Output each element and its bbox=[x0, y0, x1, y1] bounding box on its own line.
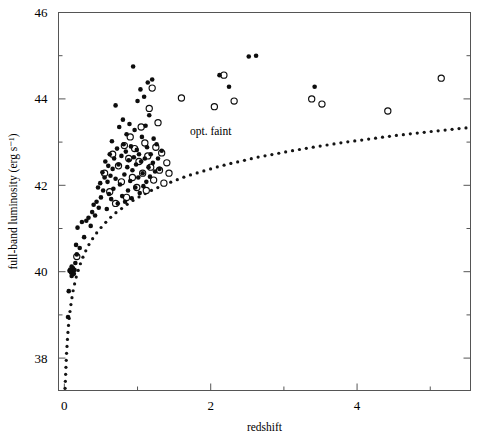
limit-curve-dot bbox=[450, 128, 453, 131]
filled-circle-point bbox=[145, 145, 150, 150]
filled-circle-point bbox=[143, 123, 148, 128]
filled-circle-point bbox=[120, 194, 125, 199]
limit-curve-dot bbox=[360, 138, 363, 141]
open-circle-point bbox=[178, 95, 184, 101]
filled-circle-point bbox=[110, 139, 115, 144]
filled-circle-point bbox=[88, 224, 93, 229]
filled-circle-point bbox=[146, 165, 151, 170]
filled-circle-point bbox=[133, 185, 138, 190]
filled-circle-point bbox=[116, 162, 121, 167]
filled-circle-point bbox=[112, 156, 117, 161]
limit-curve-dot bbox=[319, 145, 322, 148]
limit-curve-dot bbox=[64, 380, 67, 383]
limit-curve-dot bbox=[339, 141, 342, 144]
filled-circle-point bbox=[156, 156, 161, 161]
limit-curve-dot bbox=[367, 138, 370, 141]
y-tick-label: 42 bbox=[35, 178, 48, 193]
filled-circle-point bbox=[254, 53, 259, 58]
filled-circle-point bbox=[123, 199, 128, 204]
data-points-open bbox=[74, 72, 445, 260]
filled-circle-point bbox=[101, 188, 106, 193]
x-tick-label: 4 bbox=[354, 398, 361, 413]
limit-curve-dot bbox=[87, 243, 90, 246]
filled-circle-point bbox=[115, 201, 120, 206]
filled-circle-point bbox=[124, 149, 129, 154]
open-circle-point bbox=[231, 98, 237, 104]
limit-curve-dot bbox=[84, 249, 87, 252]
filled-circle-point bbox=[137, 152, 142, 157]
open-circle-point bbox=[309, 96, 315, 102]
filled-circle-point bbox=[142, 94, 147, 99]
data-points-filled bbox=[66, 53, 317, 319]
filled-circle-point bbox=[154, 142, 159, 147]
filled-circle-point bbox=[138, 87, 143, 92]
limit-curve-dot bbox=[95, 231, 98, 234]
filled-circle-point bbox=[108, 174, 113, 179]
limit-curve-dot bbox=[64, 366, 67, 369]
limit-curve-dot bbox=[150, 189, 153, 192]
limit-curve-dot bbox=[291, 149, 294, 152]
limit-curve-dot bbox=[77, 269, 80, 272]
limit-curve-dot bbox=[137, 195, 140, 198]
limit-curve-dot bbox=[257, 156, 260, 159]
filled-circle-point bbox=[135, 99, 140, 104]
filled-circle-point bbox=[75, 225, 80, 230]
filled-circle-point bbox=[107, 192, 112, 197]
limit-curve-dot bbox=[104, 221, 107, 224]
filled-circle-point bbox=[227, 85, 232, 90]
scatter-figure: 0243840424446 opt. faint redshiftfull-ba… bbox=[0, 0, 477, 434]
open-circle-point bbox=[166, 170, 172, 176]
x-axis-title: redshift bbox=[247, 421, 283, 433]
y-tick-label: 38 bbox=[35, 351, 48, 366]
limit-curve-dot bbox=[65, 345, 68, 348]
filled-circle-point bbox=[80, 220, 85, 225]
limit-curve-dot bbox=[156, 186, 159, 189]
filled-circle-point bbox=[132, 128, 137, 133]
y-axis-title: full-band luminosity (erg s⁻¹) bbox=[7, 133, 20, 269]
filled-circle-point bbox=[96, 205, 101, 210]
limit-curve-dot bbox=[209, 167, 212, 170]
limit-curve-dot bbox=[109, 216, 112, 219]
filled-circle-point bbox=[103, 159, 108, 164]
limit-curve-dot bbox=[298, 148, 301, 151]
limit-curve-dot bbox=[229, 162, 232, 165]
filled-circle-point bbox=[148, 152, 153, 157]
filled-circle-point bbox=[105, 180, 110, 185]
filled-circle-point bbox=[131, 64, 136, 69]
filled-circle-point bbox=[312, 85, 317, 90]
filled-circle-point bbox=[246, 54, 251, 59]
limit-curve-dot bbox=[250, 157, 253, 160]
filled-circle-point bbox=[109, 197, 114, 202]
axis-ticks bbox=[59, 13, 471, 391]
open-circle-point bbox=[161, 180, 167, 186]
filled-circle-point bbox=[124, 132, 129, 137]
filled-circle-point bbox=[137, 191, 142, 196]
limit-curve-dot bbox=[196, 171, 199, 174]
x-tick-label: 2 bbox=[207, 398, 214, 413]
filled-circle-point bbox=[145, 80, 150, 85]
filled-circle-point bbox=[144, 180, 149, 185]
filled-circle-point bbox=[113, 177, 118, 182]
limit-curve-dot bbox=[81, 256, 84, 259]
open-circle-point bbox=[149, 85, 155, 91]
filled-circle-point bbox=[72, 272, 77, 277]
filled-circle-point bbox=[147, 113, 152, 118]
limit-curve-dot bbox=[222, 164, 225, 167]
filled-circle-point bbox=[115, 146, 120, 151]
limit-curve-dot bbox=[395, 134, 398, 137]
limit-curve-dot bbox=[189, 173, 192, 176]
filled-circle-point bbox=[111, 186, 116, 191]
filled-circle-point bbox=[77, 246, 82, 251]
plot-frame bbox=[59, 13, 471, 391]
filled-circle-point bbox=[96, 185, 101, 190]
filled-circle-point bbox=[98, 181, 103, 186]
limit-curve-dot bbox=[75, 276, 78, 279]
filled-circle-point bbox=[66, 289, 71, 294]
filled-circle-point bbox=[119, 154, 124, 159]
filled-circle-point bbox=[126, 158, 131, 163]
filled-circle-point bbox=[102, 175, 107, 180]
limit-curve-dot bbox=[270, 153, 273, 156]
filled-circle-point bbox=[130, 168, 135, 173]
limit-curve-dot bbox=[70, 296, 73, 299]
filled-circle-point bbox=[217, 73, 222, 78]
